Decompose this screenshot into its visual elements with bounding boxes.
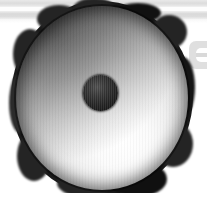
watermark-logo-bar-icon [196,53,207,57]
image-canvas [0,0,207,199]
disk-center-hole-striping [83,75,118,111]
bottom-crop-edge [0,193,207,199]
